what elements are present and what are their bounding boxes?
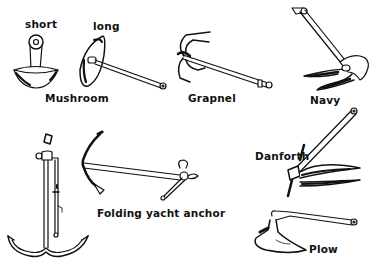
plow-anchor-icon <box>255 211 357 253</box>
label-short: short <box>25 18 57 30</box>
kedge-anchor-icon <box>8 134 88 257</box>
anchor-illustrations <box>0 0 376 264</box>
label-long: long <box>93 20 120 32</box>
navy-anchor-icon <box>292 8 368 90</box>
label-grapnel: Grapnel <box>188 92 236 104</box>
mushroom-short-icon <box>14 35 58 88</box>
label-navy: Navy <box>310 94 340 106</box>
label-mushroom: Mushroom <box>45 92 109 104</box>
mushroom-long-icon <box>80 36 166 89</box>
grapnel-icon <box>178 32 272 88</box>
label-plow: Plow <box>309 243 338 255</box>
label-folding-yacht-anchor: Folding yacht anchor <box>97 207 225 219</box>
label-danforth: Danforth <box>255 150 309 162</box>
folding-yacht-anchor-icon <box>83 132 198 200</box>
anchor-types-diagram: short long Mushroom Grapnel Navy Folding… <box>0 0 376 264</box>
